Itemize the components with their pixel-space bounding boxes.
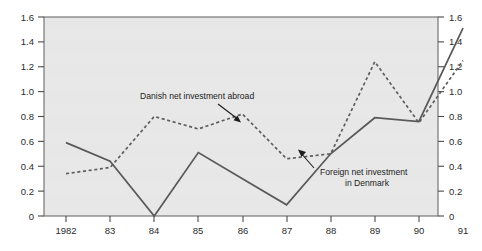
annotation-foreign-label-line2: in Denmark [345,178,390,188]
annotation-danish-label: Danish net investment abroad [140,91,254,101]
chart-figure: 1.6 1.4 1.2 1.0 0.8 0.6 0.4 0.2 0 1.6 1.… [0,0,482,251]
left-tick-label: 1.0 [21,86,34,97]
left-tick-label: 0.4 [21,161,34,172]
right-tick-label: 0.8 [449,111,462,122]
bottom-axis-ticks [66,216,419,222]
right-tick-label: 1.2 [449,61,462,72]
x-tick-label: 89 [370,225,381,236]
x-tick-label: 87 [282,225,293,236]
left-tick-label: 0 [29,211,34,222]
x-tick-label: 91 [458,225,469,236]
right-tick-label: 1.6 [449,12,462,23]
x-tick-label: 84 [149,225,160,236]
x-tick-label: 83 [105,225,116,236]
x-tick-label: 1982 [55,225,76,236]
annotation-foreign-label-line1: Foreign net investment [320,167,408,177]
x-tick-label: 90 [414,225,425,236]
x-axis-labels: 1982 83 84 85 86 87 88 89 90 91 [55,225,468,236]
left-axis-ticks [38,17,44,216]
right-tick-label: 0.6 [449,136,462,147]
left-tick-label: 0.8 [21,111,34,122]
left-tick-label: 1.6 [21,12,34,23]
left-tick-label: 1.4 [21,36,34,47]
left-tick-label: 0.2 [21,186,34,197]
left-tick-label: 1.2 [21,61,34,72]
right-tick-label: 0.2 [449,186,462,197]
left-axis-labels: 1.6 1.4 1.2 1.0 0.8 0.6 0.4 0.2 0 [21,12,34,222]
x-tick-label: 86 [238,225,249,236]
right-tick-label: 0.4 [449,161,462,172]
right-tick-label: 0 [449,211,454,222]
x-tick-label: 88 [326,225,337,236]
right-tick-label: 1.0 [449,86,462,97]
line-chart: 1.6 1.4 1.2 1.0 0.8 0.6 0.4 0.2 0 1.6 1.… [0,0,482,251]
right-axis-ticks [438,17,444,216]
left-tick-label: 0.6 [21,136,34,147]
x-tick-label: 85 [193,225,204,236]
